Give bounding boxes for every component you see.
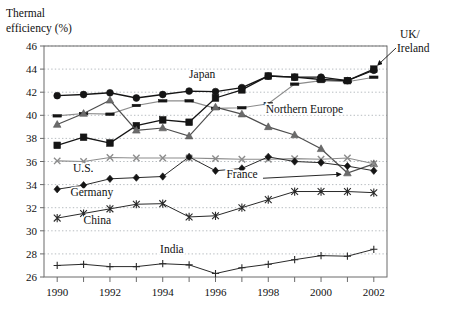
ytick-label-44: 44 [26, 63, 38, 75]
marker-dash [106, 113, 114, 115]
marker-dash [132, 104, 140, 106]
xtick-label-2000: 2000 [310, 286, 333, 298]
marker-square [80, 134, 87, 141]
marker-square [344, 77, 351, 84]
marker-square [371, 66, 378, 73]
marker-triangle [106, 96, 114, 103]
marker-plus [317, 252, 324, 259]
marker-diamond [371, 167, 377, 174]
marker-square [107, 140, 114, 147]
marker-plus [54, 262, 61, 269]
marker-circle [133, 95, 140, 102]
xtick-label-2002: 2002 [363, 286, 385, 298]
marker-circle [54, 92, 61, 99]
ytick-label-42: 42 [26, 86, 37, 98]
marker-plus [344, 253, 351, 260]
ytick-label-46: 46 [26, 40, 38, 52]
marker-triangle [159, 124, 167, 131]
marker-triangle [264, 123, 272, 130]
y-axis-title-line1: Thermal [6, 7, 45, 19]
series-line [57, 249, 374, 273]
marker-square [186, 119, 193, 126]
marker-plus [370, 246, 377, 253]
marker-triangle [317, 145, 325, 152]
series-annotation-u-s: U.S. [73, 162, 94, 174]
marker-asterisk [265, 196, 272, 204]
marker-square [318, 76, 325, 83]
marker-dash [159, 100, 167, 102]
xtick-label-1996: 1996 [205, 286, 228, 298]
ytick-label-40: 40 [26, 109, 38, 121]
marker-dash [53, 115, 61, 117]
thermal-efficiency-chart: Thermalefficiency (%)2628303234363840424… [0, 0, 450, 314]
marker-dash [185, 100, 193, 102]
marker-plus [106, 263, 113, 270]
xtick-label-1990: 1990 [46, 286, 69, 298]
marker-plus [186, 261, 193, 268]
marker-dash [370, 76, 378, 78]
series-annotation-china: China [84, 214, 111, 226]
ytick-label-34: 34 [26, 179, 38, 191]
marker-dash [290, 83, 298, 85]
marker-plus [265, 261, 272, 268]
marker-plus [291, 256, 298, 263]
marker-diamond [133, 174, 139, 181]
ytick-label-36: 36 [26, 156, 38, 168]
marker-dash [238, 107, 246, 109]
marker-circle [186, 88, 193, 95]
xtick-label-1994: 1994 [152, 286, 175, 298]
marker-diamond [160, 173, 166, 180]
series-annotation-uk-ireland-line2: Ireland [397, 42, 430, 54]
marker-circle [80, 91, 87, 98]
marker-plus [238, 264, 245, 271]
ytick-label-30: 30 [26, 225, 38, 237]
france-leader-line [263, 174, 341, 178]
marker-triangle [212, 103, 220, 110]
series-annotation-india: India [160, 243, 184, 255]
series-annotation-japan: Japan [189, 68, 215, 81]
series-annotation-france: France [226, 168, 257, 180]
marker-diamond [107, 175, 113, 182]
marker-circle [107, 89, 114, 96]
marker-circle [212, 88, 219, 95]
marker-plus [159, 260, 166, 267]
marker-square [239, 87, 246, 94]
xtick-label-1998: 1998 [257, 286, 280, 298]
series-annotation-northern-europe: Northern Europe [266, 103, 344, 116]
marker-square [54, 142, 61, 149]
marker-diamond [318, 159, 324, 166]
marker-plus [133, 263, 140, 270]
marker-plus [80, 261, 87, 268]
series-annotation-germany: Germany [70, 186, 113, 199]
marker-square [291, 74, 298, 81]
ytick-label-38: 38 [26, 132, 38, 144]
marker-square [265, 73, 272, 80]
marker-square [212, 95, 219, 102]
marker-diamond [54, 186, 60, 193]
series-india [54, 246, 378, 277]
ytick-label-28: 28 [26, 248, 38, 260]
marker-plus [212, 270, 219, 277]
y-axis-title-line2: efficiency (%) [6, 22, 72, 35]
marker-circle [159, 91, 166, 98]
ytick-label-26: 26 [26, 271, 38, 283]
marker-diamond [212, 167, 218, 174]
xtick-label-1992: 1992 [99, 286, 121, 298]
marker-square [159, 117, 166, 124]
ytick-label-32: 32 [26, 202, 37, 214]
marker-diamond [344, 162, 350, 169]
chart-canvas: Thermalefficiency (%)2628303234363840424… [0, 0, 450, 314]
series-annotation-uk-ireland-line1: UK/ [400, 28, 421, 40]
